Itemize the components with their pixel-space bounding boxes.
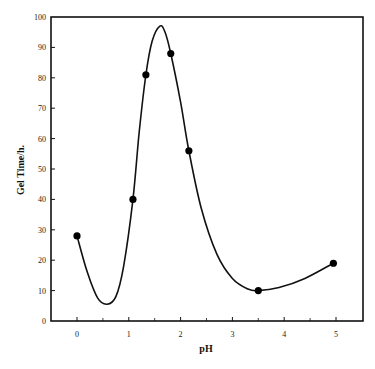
y-axis-ticks: 0102030405060708090100 (34, 13, 55, 326)
y-tick-label: 30 (38, 226, 46, 235)
x-tick-label: 0 (75, 330, 79, 339)
data-markers (73, 50, 337, 294)
x-tick-label: 2 (179, 330, 183, 339)
y-axis-title: Gel Time/h. (15, 144, 26, 195)
data-point (142, 71, 149, 78)
y-tick-label: 80 (38, 74, 46, 83)
x-tick-label: 3 (230, 330, 234, 339)
plot-border (51, 17, 363, 321)
y-tick-label: 60 (38, 135, 46, 144)
x-axis-title: pH (199, 343, 213, 354)
plot-frame (51, 17, 363, 321)
x-tick-label: 4 (282, 330, 286, 339)
x-tick-label: 1 (127, 330, 131, 339)
gel-time-chart: 0102030405060708090100 012345 pH Gel Tim… (0, 0, 375, 369)
data-point (73, 232, 80, 239)
x-tick-label: 5 (334, 330, 338, 339)
data-point (129, 196, 136, 203)
y-tick-label: 90 (38, 43, 46, 52)
y-tick-label: 100 (34, 13, 46, 22)
data-point (255, 287, 262, 294)
data-point (330, 260, 337, 267)
y-tick-label: 20 (38, 256, 46, 265)
data-point (185, 147, 192, 154)
y-tick-label: 40 (38, 195, 46, 204)
y-tick-label: 50 (38, 165, 46, 174)
y-tick-label: 70 (38, 104, 46, 113)
y-tick-label: 10 (38, 287, 46, 296)
y-tick-label: 0 (42, 317, 46, 326)
data-point (167, 50, 174, 57)
fitted-curve (77, 26, 333, 305)
